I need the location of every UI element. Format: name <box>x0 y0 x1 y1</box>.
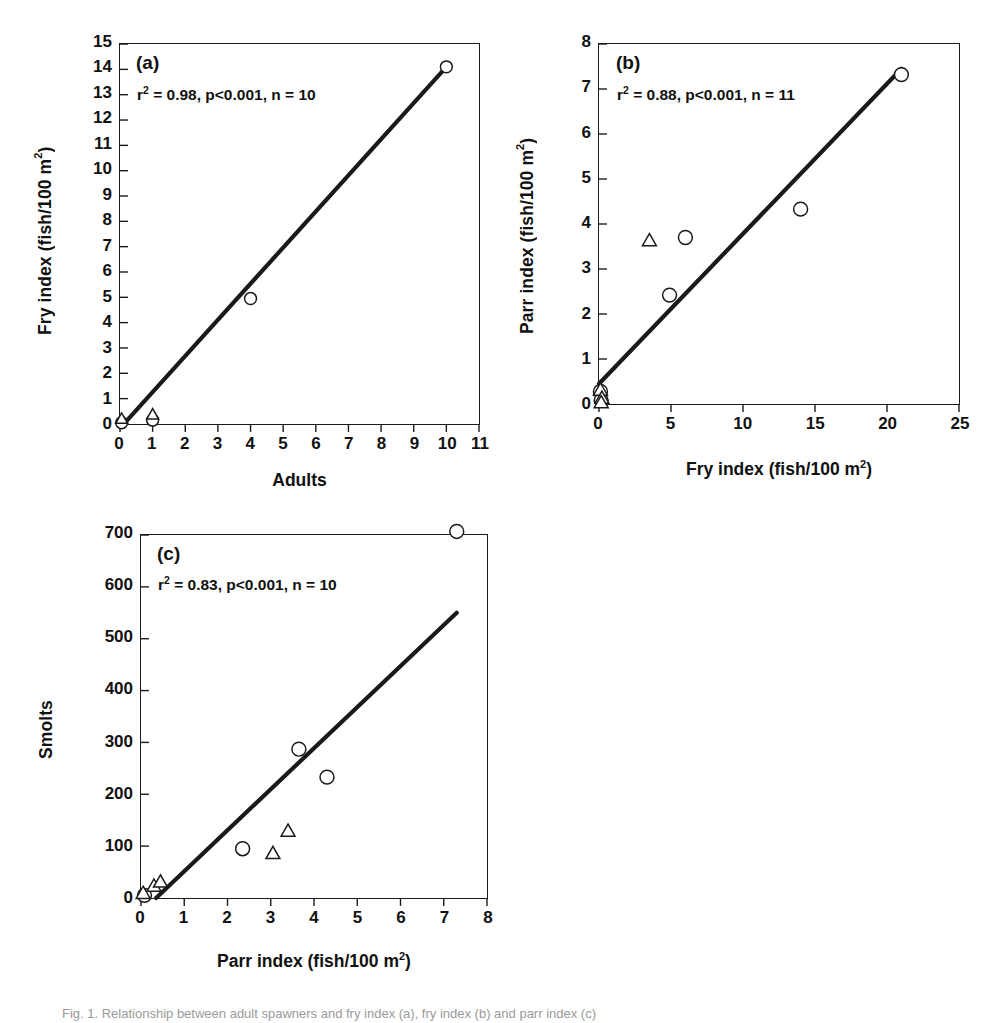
panel-a-x-axis-label: Adults <box>119 470 480 491</box>
panel-a-label: (a) <box>136 52 159 74</box>
y-tick-label: 6 <box>531 123 591 143</box>
panel-c-stats: r2 = 0.83, p<0.001, n = 10 <box>158 574 337 594</box>
y-tick-label: 0 <box>73 888 133 908</box>
y-tick-label: 0 <box>52 414 112 434</box>
y-tick-label: 5 <box>531 168 591 188</box>
x-tick-label: 25 <box>930 414 990 434</box>
y-tick-label: 2 <box>52 363 112 383</box>
panel-c-label: (c) <box>157 543 180 565</box>
y-tick-label: 1 <box>531 349 591 369</box>
x-tick-label: 15 <box>785 414 845 434</box>
panel-b: Parr index (fish/100 m2) 012345678 05101… <box>500 0 1006 500</box>
y-tick-label: 13 <box>52 83 112 103</box>
panel-b-label: (b) <box>616 52 640 74</box>
panel-b-y-axis-label: Parr index (fish/100 m2) <box>508 76 532 396</box>
y-tick-label: 9 <box>52 185 112 205</box>
y-tick-label: 15 <box>52 32 112 52</box>
x-tick-label: 20 <box>858 414 918 434</box>
panel-a-y-axis-label: Fry index (fish/100 m2) <box>26 96 50 386</box>
y-tick-label: 0 <box>531 394 591 414</box>
y-tick-label: 400 <box>73 679 133 699</box>
y-tick-label: 3 <box>52 338 112 358</box>
y-tick-label: 7 <box>531 77 591 97</box>
y-tick-label: 700 <box>73 523 133 543</box>
x-tick-label: 0 <box>568 414 628 434</box>
y-tick-label: 500 <box>73 627 133 647</box>
y-tick-label: 100 <box>73 836 133 856</box>
y-tick-label: 12 <box>52 108 112 128</box>
y-tick-label: 8 <box>531 32 591 52</box>
x-tick-label: 5 <box>640 414 700 434</box>
panel-a: Fry index (fish/100 m2) 0123456789101112… <box>0 0 500 500</box>
y-tick-label: 14 <box>52 57 112 77</box>
y-tick-label: 200 <box>73 784 133 804</box>
x-tick-label: 8 <box>458 908 518 928</box>
y-tick-label: 600 <box>73 575 133 595</box>
y-tick-label: 6 <box>52 261 112 281</box>
y-tick-label: 7 <box>52 236 112 256</box>
y-tick-label: 4 <box>52 312 112 332</box>
panel-b-x-axis-label: Fry index (fish/100 m2) <box>598 458 960 480</box>
panel-b-stats: r2 = 0.88, p<0.001, n = 11 <box>617 84 795 104</box>
y-tick-label: 11 <box>52 134 112 154</box>
panel-c-x-axis-label: Parr index (fish/100 m2) <box>140 950 488 972</box>
panel-c: Smolts 0100200300400500600700 012345678 … <box>0 500 520 1000</box>
y-tick-label: 5 <box>52 287 112 307</box>
y-tick-label: 3 <box>531 258 591 278</box>
y-tick-label: 1 <box>52 389 112 409</box>
y-tick-label: 8 <box>52 210 112 230</box>
x-tick-label: 10 <box>713 414 773 434</box>
panel-a-stats: r2 = 0.98, p<0.001, n = 10 <box>137 84 316 104</box>
y-tick-label: 10 <box>52 159 112 179</box>
y-tick-label: 4 <box>531 213 591 233</box>
y-tick-label: 2 <box>531 304 591 324</box>
figure-caption: Fig. 1. Relationship between adult spawn… <box>62 1006 962 1023</box>
y-tick-label: 300 <box>73 732 133 752</box>
panel-c-y-axis-label: Smolts <box>34 660 58 800</box>
